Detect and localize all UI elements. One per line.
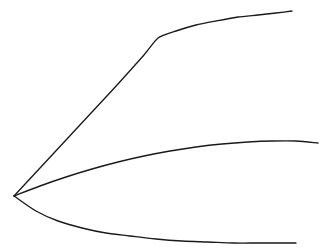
figure-background xyxy=(0,0,327,251)
sketch-figure xyxy=(0,0,327,251)
line-sketch-canvas xyxy=(0,0,327,251)
